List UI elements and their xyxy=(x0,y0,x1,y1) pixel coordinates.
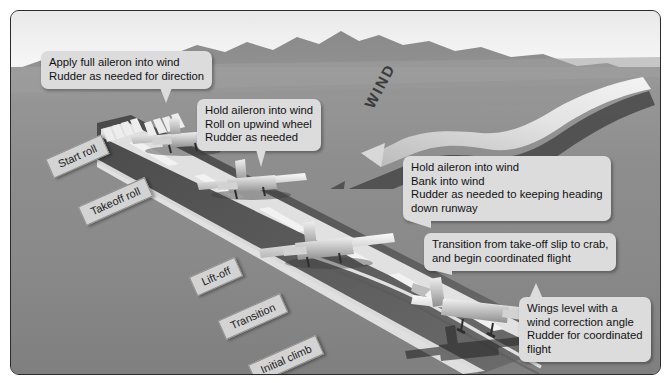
callout-line: Apply full aileron into wind xyxy=(49,56,204,70)
callout-line: flight xyxy=(527,343,643,357)
callout-line: Rudder as needed xyxy=(205,131,313,145)
callout-line: Rudder as needed to keeping heading xyxy=(411,188,603,202)
callout-line: and begin coordinated flight xyxy=(432,252,608,266)
callout-line: Hold aileron into wind xyxy=(205,104,313,118)
callout-tail xyxy=(159,85,173,103)
callout-line: Roll on upwind wheel xyxy=(205,118,313,132)
callout-line: down runway xyxy=(411,202,603,216)
crosswind-takeoff-diagram: WIND xyxy=(10,10,661,375)
callout-tail xyxy=(428,263,452,275)
callout-line: Rudder as needed for direction xyxy=(49,70,204,84)
callout-line: wind correction angle xyxy=(527,316,643,330)
callout-takeoff-roll: Hold aileron into wind Roll on upwind wh… xyxy=(197,99,321,151)
callout-transition: Transition from take-off slip to crab, a… xyxy=(424,233,616,271)
callout-lift-off: Hold aileron into wind Bank into wind Ru… xyxy=(403,156,611,221)
callout-tail xyxy=(409,214,431,228)
callout-line: Hold aileron into wind xyxy=(411,161,603,175)
callout-tail xyxy=(255,146,267,167)
callout-tail xyxy=(529,283,543,299)
callout-line: Wings level with a xyxy=(527,302,643,316)
callout-line: Rudder for coordinated xyxy=(527,329,643,343)
callout-initial-climb: Wings level with a wind correction angle… xyxy=(519,297,651,362)
callout-line: Transition from take-off slip to crab, xyxy=(432,238,608,252)
scene: WIND xyxy=(11,11,660,374)
callout-line: Bank into wind xyxy=(411,175,603,189)
callout-start-roll: Apply full aileron into wind Rudder as n… xyxy=(41,51,212,89)
